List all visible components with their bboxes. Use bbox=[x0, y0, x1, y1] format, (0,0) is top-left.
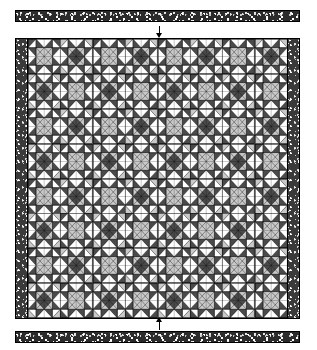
quilt-block bbox=[60, 283, 92, 318]
quilt-block bbox=[60, 144, 92, 179]
quilt-block bbox=[190, 74, 222, 109]
bottom-border-strip bbox=[15, 331, 300, 343]
quilt-block bbox=[255, 109, 287, 144]
quilt-block bbox=[222, 144, 254, 179]
quilt-block bbox=[255, 144, 287, 179]
quilt-block bbox=[28, 74, 60, 109]
quilt-block bbox=[28, 109, 60, 144]
quilt-block bbox=[158, 74, 190, 109]
arrow-head bbox=[156, 317, 162, 322]
quilt-block bbox=[190, 213, 222, 248]
quilt-block bbox=[93, 74, 125, 109]
quilt-block bbox=[125, 109, 157, 144]
right-side-border bbox=[287, 39, 299, 318]
quilt-block bbox=[93, 109, 125, 144]
quilt-block bbox=[28, 39, 60, 74]
quilt-block bbox=[125, 74, 157, 109]
quilt-block bbox=[222, 109, 254, 144]
quilt-block bbox=[60, 213, 92, 248]
quilt-block bbox=[93, 283, 125, 318]
quilt-block bbox=[158, 39, 190, 74]
quilt-block bbox=[28, 144, 60, 179]
quilt-block bbox=[158, 283, 190, 318]
quilt-block bbox=[28, 213, 60, 248]
quilt-block bbox=[93, 39, 125, 74]
quilt-block bbox=[255, 39, 287, 74]
quilt-block bbox=[158, 179, 190, 214]
quilt-block bbox=[60, 248, 92, 283]
quilt-block bbox=[222, 248, 254, 283]
quilt-diagram bbox=[0, 0, 317, 350]
quilt-block bbox=[190, 144, 222, 179]
quilt-block bbox=[125, 283, 157, 318]
arrow-up-icon bbox=[155, 317, 164, 329]
left-side-border bbox=[16, 39, 28, 318]
quilt-block bbox=[158, 248, 190, 283]
quilt-block bbox=[125, 248, 157, 283]
arrow-shaft bbox=[159, 321, 160, 330]
block-grid bbox=[28, 39, 287, 318]
quilt-block bbox=[222, 213, 254, 248]
quilt-block bbox=[190, 248, 222, 283]
quilt-block bbox=[125, 179, 157, 214]
quilt-block bbox=[60, 74, 92, 109]
quilt-block bbox=[222, 283, 254, 318]
quilt-block bbox=[190, 39, 222, 74]
quilt-block bbox=[255, 248, 287, 283]
quilt-block bbox=[158, 144, 190, 179]
quilt-block bbox=[28, 283, 60, 318]
quilt-block bbox=[255, 74, 287, 109]
quilt-block bbox=[125, 213, 157, 248]
quilt-block bbox=[222, 179, 254, 214]
quilt-block bbox=[190, 283, 222, 318]
quilt-block bbox=[60, 109, 92, 144]
quilt-block bbox=[60, 39, 92, 74]
quilt-block bbox=[190, 179, 222, 214]
quilt-block bbox=[222, 39, 254, 74]
arrow-down-icon bbox=[155, 26, 164, 38]
quilt-block bbox=[222, 74, 254, 109]
quilt-body bbox=[15, 38, 300, 319]
quilt-block bbox=[255, 213, 287, 248]
quilt-block bbox=[93, 144, 125, 179]
quilt-block bbox=[125, 39, 157, 74]
quilt-block bbox=[60, 179, 92, 214]
quilt-block bbox=[158, 213, 190, 248]
quilt-block bbox=[93, 179, 125, 214]
quilt-block bbox=[28, 179, 60, 214]
top-border-strip bbox=[15, 10, 300, 22]
quilt-block bbox=[28, 248, 60, 283]
quilt-block bbox=[190, 109, 222, 144]
quilt-block bbox=[255, 283, 287, 318]
quilt-block bbox=[93, 213, 125, 248]
quilt-block bbox=[93, 248, 125, 283]
quilt-block bbox=[158, 109, 190, 144]
quilt-block bbox=[125, 144, 157, 179]
quilt-block bbox=[255, 179, 287, 214]
